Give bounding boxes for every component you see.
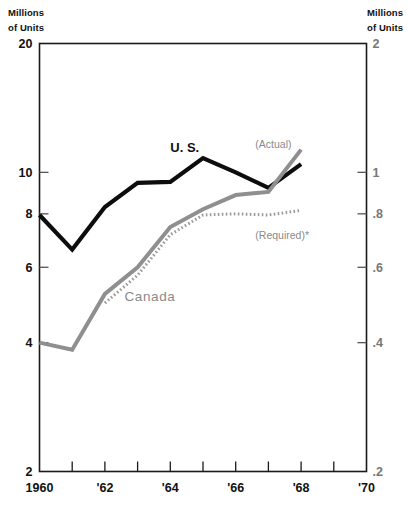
x-tick-label: '64 bbox=[162, 481, 179, 495]
right-axis-title-line1: Millions bbox=[367, 7, 403, 18]
left-axis-title-line1: Millions bbox=[8, 7, 44, 18]
annotation-actual: (Actual) bbox=[255, 138, 291, 150]
right-tick-label: 1 bbox=[373, 166, 380, 180]
x-tick-label: '66 bbox=[227, 481, 244, 495]
left-tick-label: 4 bbox=[26, 336, 33, 350]
annotation-required: (Required)* bbox=[255, 229, 309, 241]
right-tick-label: .2 bbox=[373, 465, 383, 479]
annotation-u-s: U. S. bbox=[170, 140, 199, 155]
right-axis-title-line2: of Units bbox=[367, 22, 403, 33]
left-tick-label: 6 bbox=[26, 261, 33, 275]
annotation-canada: Canada bbox=[125, 289, 176, 304]
x-tick-label: '62 bbox=[96, 481, 113, 495]
x-tick-label: 1960 bbox=[26, 481, 54, 495]
plot-frame bbox=[40, 44, 367, 472]
chart-container: Millions of Units Millions of Units 2010… bbox=[0, 0, 408, 512]
left-axis-title-line2: of Units bbox=[8, 22, 44, 33]
line-chart: Millions of Units Millions of Units 2010… bbox=[0, 0, 408, 512]
x-tick-label: '68 bbox=[293, 481, 310, 495]
right-tick-label: .8 bbox=[373, 207, 383, 221]
left-axis-ticks: 20108642 bbox=[19, 37, 49, 479]
left-tick-label: 20 bbox=[19, 37, 33, 51]
x-tick-label: '70 bbox=[358, 481, 375, 495]
left-tick-label: 2 bbox=[26, 465, 33, 479]
data-series-group bbox=[40, 150, 302, 350]
left-tick-label: 10 bbox=[19, 166, 33, 180]
right-tick-label: .4 bbox=[373, 336, 383, 350]
right-tick-label: .6 bbox=[373, 261, 383, 275]
right-axis-ticks: 21.8.6.4.2 bbox=[358, 37, 383, 479]
x-axis-ticks: 1960'62'64'66'68'70 bbox=[26, 462, 375, 495]
left-tick-label: 8 bbox=[26, 207, 33, 221]
right-tick-label: 2 bbox=[373, 37, 380, 51]
